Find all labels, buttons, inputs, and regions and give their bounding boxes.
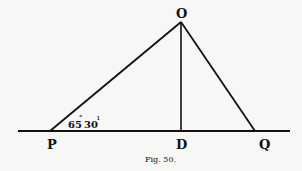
- label-P: P: [47, 137, 57, 152]
- angle-minutes: 30: [84, 119, 98, 130]
- label-O: O: [176, 6, 187, 21]
- label-Q: Q: [259, 137, 270, 152]
- label-D: D: [176, 137, 187, 152]
- minute-symbol: ı: [97, 113, 100, 122]
- geometry-figure: O P D Q 65 ° 30 ı Fig. 50.: [0, 0, 302, 171]
- segment-OQ: [181, 22, 255, 131]
- degree-symbol: °: [79, 114, 83, 122]
- figure-caption: Fig. 50.: [145, 155, 176, 164]
- segment-PO: [50, 22, 181, 131]
